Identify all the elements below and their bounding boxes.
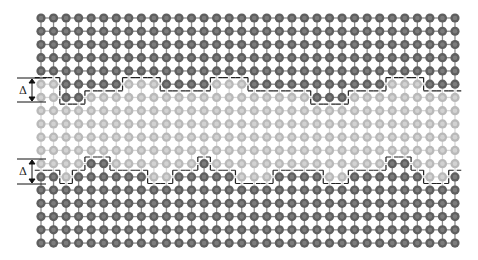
light-atom xyxy=(350,119,359,128)
light-atom xyxy=(187,133,196,142)
dark-atom xyxy=(149,66,158,75)
light-atom xyxy=(287,146,296,155)
light-atom xyxy=(400,133,409,142)
dark-atom xyxy=(300,80,309,89)
light-atom xyxy=(438,93,447,102)
dark-atom xyxy=(275,40,284,49)
light-atom xyxy=(199,106,208,115)
dark-atom xyxy=(212,199,221,208)
light-atom xyxy=(363,133,372,142)
light-atom xyxy=(36,93,45,102)
light-atom xyxy=(99,146,108,155)
dark-atom xyxy=(162,13,171,22)
dark-atom xyxy=(275,199,284,208)
dark-atom xyxy=(112,199,121,208)
dark-atom xyxy=(61,212,70,221)
dark-atom xyxy=(112,27,121,36)
dark-atom xyxy=(413,13,422,22)
light-atom xyxy=(137,133,146,142)
dark-atom xyxy=(287,66,296,75)
light-atom xyxy=(162,133,171,142)
light-atom xyxy=(275,133,284,142)
dark-atom xyxy=(187,13,196,22)
dark-atom xyxy=(325,186,334,195)
dark-atom xyxy=(174,80,183,89)
light-atom xyxy=(112,119,121,128)
dark-atom xyxy=(112,80,121,89)
light-atom xyxy=(36,146,45,155)
dark-atom xyxy=(162,80,171,89)
light-atom xyxy=(250,106,259,115)
light-atom xyxy=(337,146,346,155)
light-atom xyxy=(262,146,271,155)
dark-atom xyxy=(250,212,259,221)
light-atom xyxy=(124,133,133,142)
dark-atom xyxy=(400,27,409,36)
dark-atom xyxy=(413,40,422,49)
dark-atom xyxy=(438,53,447,62)
light-atom xyxy=(413,80,422,89)
dark-atom xyxy=(275,186,284,195)
light-atom xyxy=(162,172,171,181)
light-atom xyxy=(300,93,309,102)
dark-atom xyxy=(300,199,309,208)
dark-atom xyxy=(74,13,83,22)
light-atom xyxy=(162,159,171,168)
light-atom xyxy=(61,159,70,168)
dark-atom xyxy=(413,66,422,75)
dark-atom xyxy=(237,40,246,49)
light-atom xyxy=(325,133,334,142)
light-atom xyxy=(375,93,384,102)
light-atom xyxy=(438,172,447,181)
light-atom xyxy=(199,146,208,155)
dark-atom xyxy=(237,66,246,75)
dark-atom xyxy=(400,172,409,181)
dark-atom xyxy=(162,225,171,234)
light-atom xyxy=(337,106,346,115)
light-atom xyxy=(137,146,146,155)
dark-atom xyxy=(425,66,434,75)
light-atom xyxy=(425,159,434,168)
dark-atom xyxy=(225,172,234,181)
dark-atom xyxy=(87,212,96,221)
light-atom xyxy=(137,119,146,128)
dark-atom xyxy=(300,40,309,49)
dark-atom xyxy=(61,225,70,234)
dark-atom xyxy=(400,13,409,22)
dark-atom xyxy=(275,53,284,62)
dark-atom xyxy=(350,212,359,221)
dark-atom xyxy=(438,80,447,89)
dark-atom xyxy=(187,53,196,62)
dark-atom xyxy=(312,238,321,247)
dark-atom xyxy=(350,172,359,181)
light-atom xyxy=(61,146,70,155)
dark-atom xyxy=(174,225,183,234)
dark-atom xyxy=(400,53,409,62)
dark-atom xyxy=(187,238,196,247)
dark-atom xyxy=(87,80,96,89)
light-atom xyxy=(212,133,221,142)
dark-atom xyxy=(388,225,397,234)
light-atom xyxy=(337,119,346,128)
dark-atom xyxy=(137,66,146,75)
dark-atom xyxy=(425,199,434,208)
dark-atom xyxy=(413,212,422,221)
light-atom xyxy=(388,93,397,102)
light-atom xyxy=(275,93,284,102)
light-atom xyxy=(49,106,58,115)
dark-atom xyxy=(124,40,133,49)
light-atom xyxy=(425,106,434,115)
dark-atom xyxy=(262,238,271,247)
light-atom xyxy=(49,93,58,102)
light-atom xyxy=(325,119,334,128)
dark-atom xyxy=(174,238,183,247)
dark-atom xyxy=(149,199,158,208)
dark-atom xyxy=(250,13,259,22)
dark-atom xyxy=(87,186,96,195)
dark-atom xyxy=(300,172,309,181)
dark-atom xyxy=(337,66,346,75)
dark-atom xyxy=(250,66,259,75)
dark-atom xyxy=(312,27,321,36)
light-atom xyxy=(225,80,234,89)
lattice-figure: Δ Δ xyxy=(0,0,478,260)
